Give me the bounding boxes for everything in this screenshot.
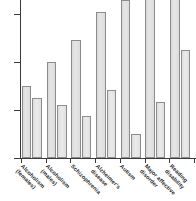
bar [156,102,166,158]
y-axis-line [20,0,21,159]
bar [145,0,155,158]
bar [22,86,32,158]
x-axis-label: Autism [119,163,137,181]
x-axis-label: Alcoholism(females) [15,163,46,194]
bar [170,0,180,158]
y-axis-tick [14,62,20,63]
bar [181,50,191,158]
bar [107,90,117,158]
x-axis-label: Alcoholism(males) [40,163,71,194]
bar [47,62,57,158]
x-axis-label-line: Autism [119,163,137,181]
bar [71,40,81,158]
x-axis-labels: Alcoholism(females)Alcoholism(males)Schi… [0,158,196,201]
bar [57,105,67,158]
bar [121,0,131,158]
bar [32,98,42,158]
bar-chart: 00.20.40.6 Alcoholism(females)Alcoholism… [0,0,196,201]
bar [96,12,106,158]
bar [82,116,92,158]
y-axis-tick [14,110,20,111]
y-axis-tick [14,14,20,15]
bar [131,134,141,158]
